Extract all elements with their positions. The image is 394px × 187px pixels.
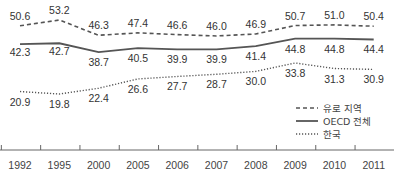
data-label: 30.9: [363, 73, 384, 85]
legend-label: 유로 지역: [323, 103, 362, 114]
x-tick-label: 2007: [205, 159, 229, 171]
legend-label: OECD 전체: [323, 116, 371, 127]
data-label: 27.7: [167, 80, 188, 92]
data-label: 26.6: [128, 83, 149, 95]
data-label: 50.4: [363, 10, 384, 22]
x-tick-label: 1992: [8, 159, 32, 171]
data-label: 31.3: [324, 73, 345, 85]
data-label: 47.4: [128, 17, 149, 29]
x-tick-label: 2011: [362, 159, 385, 171]
x-tick-label: 2000: [87, 159, 111, 171]
data-label: 50.6: [10, 10, 31, 22]
data-label: 28.7: [206, 78, 227, 90]
x-tick-label: 2005: [126, 159, 150, 171]
series-line-0: [20, 20, 374, 36]
series-line-2: [20, 63, 374, 94]
data-label: 42.3: [10, 46, 31, 58]
data-label: 44.8: [285, 43, 306, 55]
data-label: 19.8: [49, 98, 70, 110]
data-label: 39.9: [206, 53, 227, 65]
data-label: 22.4: [88, 92, 109, 104]
x-tick-label: 1995: [48, 159, 72, 171]
x-tick-label: 2006: [166, 159, 190, 171]
legend-label: 한국: [323, 129, 341, 140]
data-label: 38.7: [88, 56, 109, 68]
data-label: 42.7: [49, 45, 70, 57]
line-chart: 1992199520002005200620072008200920102011…: [0, 0, 394, 187]
data-label: 53.2: [49, 4, 70, 16]
x-tick-label: 2010: [323, 159, 347, 171]
data-label: 44.8: [324, 43, 345, 55]
data-label: 51.0: [324, 9, 345, 21]
data-label: 40.5: [128, 52, 149, 64]
data-label: 39.9: [167, 53, 188, 65]
series-line-1: [20, 39, 374, 53]
data-label: 46.9: [246, 18, 267, 30]
data-label: 41.4: [246, 50, 267, 62]
data-label: 20.9: [10, 96, 31, 108]
data-label: 50.7: [285, 10, 306, 22]
chart-canvas: 1992199520002005200620072008200920102011…: [0, 0, 394, 187]
data-label: 46.3: [88, 19, 109, 31]
x-tick-label: 2009: [283, 159, 307, 171]
data-label: 30.0: [246, 75, 267, 87]
data-label: 44.4: [363, 43, 384, 55]
x-tick-label: 2008: [244, 159, 268, 171]
data-label: 33.8: [285, 67, 306, 79]
data-label: 46.6: [167, 19, 188, 31]
data-label: 46.0: [206, 20, 227, 32]
